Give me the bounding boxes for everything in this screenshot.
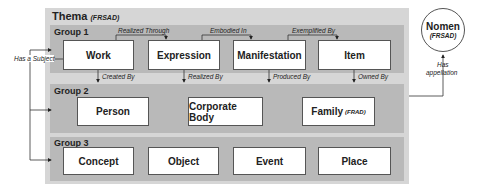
- rel-has-a-subject: Has a Subject: [14, 55, 54, 62]
- rel-created-by: Created By: [102, 73, 135, 80]
- rel-realized-by: Realized By: [188, 73, 223, 80]
- rel-embodied-in: Embodied In: [210, 27, 247, 34]
- rel-has-appellation-line1: Has: [437, 61, 449, 68]
- rel-exemplified-by: Exemplified By: [292, 27, 335, 34]
- rel-realized-through: Realized Through: [118, 27, 169, 34]
- rel-has-appellation-line2: appellation: [426, 69, 457, 76]
- rel-produced-by: Produced By: [273, 73, 310, 80]
- rel-owned-by: Owned By: [358, 73, 388, 80]
